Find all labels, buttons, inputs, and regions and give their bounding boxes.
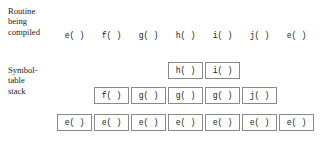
stack-column: f( )e( ) (94, 0, 129, 142)
stack-grid: e( )f( )e( )g( )e( )h( )g( )e( )i( )g( )… (0, 0, 327, 142)
stack-column: g( )e( ) (131, 0, 166, 142)
stack-column: e( ) (279, 0, 314, 142)
stack-column: h( )g( )e( ) (168, 0, 203, 142)
stack-frame-box: e( ) (94, 114, 129, 131)
stack-frame-box: g( ) (205, 87, 240, 104)
stack-frame-box: e( ) (168, 114, 203, 131)
stack-frame-box: e( ) (131, 114, 166, 131)
stack-frame-box: e( ) (205, 114, 240, 131)
stack-frame-box: j( ) (242, 87, 277, 104)
stack-column: e( ) (57, 0, 92, 142)
stack-frame-box: e( ) (242, 114, 277, 131)
stack-frame-box: h( ) (168, 62, 203, 79)
stack-frame-box: g( ) (131, 87, 166, 104)
stack-column: j( )e( ) (242, 0, 277, 142)
stack-frame-box: e( ) (279, 114, 314, 131)
symbol-table-stack-figure: Routine being compiled Symbol- table sta… (0, 0, 327, 142)
stack-frame-box: g( ) (168, 87, 203, 104)
stack-frame-box: e( ) (57, 114, 92, 131)
stack-frame-box: f( ) (94, 87, 129, 104)
stack-frame-box: i( ) (205, 62, 240, 79)
stack-column: i( )g( )e( ) (205, 0, 240, 142)
